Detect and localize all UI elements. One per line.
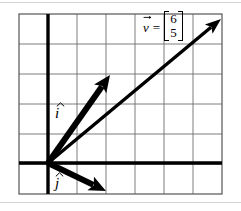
- vector-arrows: [48, 19, 221, 191]
- vector-definition-annotation: v = 6 5: [143, 11, 183, 41]
- i-hat-label: i: [55, 106, 59, 121]
- vector-diagram-figure: v = 6 5 i j: [0, 0, 241, 211]
- vector-v-symbol: v: [143, 17, 149, 36]
- j-hat-label: j: [55, 176, 59, 191]
- matrix-right-bracket: [178, 11, 183, 41]
- column-matrix: 6 5: [164, 11, 183, 41]
- coordinate-plot: [0, 0, 241, 211]
- equals-sign: =: [153, 17, 160, 36]
- i-hat-accent-icon: [56, 102, 65, 107]
- matrix-entries: 6 5: [169, 11, 178, 41]
- matrix-entry-y: 5: [170, 26, 177, 40]
- j-hat-accent-icon: [55, 172, 64, 177]
- i-hat-letter: i: [55, 105, 59, 121]
- matrix-entry-x: 6: [170, 12, 177, 26]
- vector-arrow-accent-icon: [143, 14, 152, 20]
- vector-shaft-v: [48, 27, 211, 163]
- vector-v-letter: v: [143, 20, 149, 35]
- j-hat-letter: j: [55, 175, 59, 191]
